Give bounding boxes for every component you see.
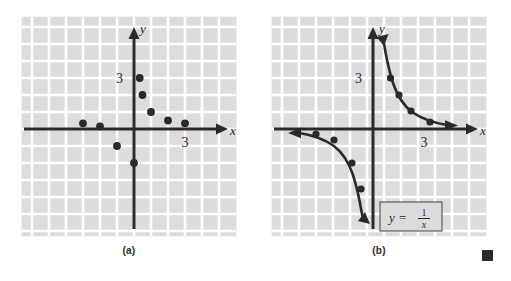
data-point (387, 74, 394, 81)
data-point (395, 91, 402, 98)
data-point (130, 159, 138, 167)
data-point (181, 119, 189, 127)
data-point (136, 74, 144, 82)
equation-numerator: 1 (422, 207, 427, 218)
data-point (139, 91, 147, 99)
data-point (330, 136, 337, 143)
x-axis-arrowhead-a (216, 124, 228, 135)
y-axis-tick-label-a: 3 (116, 71, 123, 86)
panel-b-curve-plot: 3 3 x y y = 1 x (272, 17, 486, 236)
data-point (96, 123, 104, 131)
data-point (348, 159, 355, 166)
x-axis-label-a: x (229, 123, 236, 138)
data-point (426, 118, 433, 125)
panel-a-scatter-plot: 3 3 x y (22, 17, 236, 236)
data-point (113, 142, 121, 150)
y-axis-label-b: y (377, 21, 385, 36)
figure-two-panel-reciprocal-graph: 3 3 x y (0, 0, 511, 281)
grid-lines-a (22, 17, 236, 236)
x-axis-label-b: x (479, 123, 486, 138)
x-axis-tick-label-b: 3 (421, 135, 428, 150)
panel-b-caption: (b) (250, 245, 508, 256)
x-axis-arrowhead-b (466, 124, 478, 135)
data-point (312, 130, 319, 137)
data-point (79, 119, 87, 127)
equation-lhs: y = (387, 210, 407, 225)
y-axis-tick-label-b: 3 (355, 71, 362, 86)
axes-a (24, 37, 218, 229)
panel-a-svg: 3 3 x y (22, 17, 236, 236)
end-of-example-square-icon (482, 250, 493, 261)
data-point (164, 117, 172, 125)
data-point (357, 185, 364, 192)
y-axis-arrowhead-a (129, 27, 140, 39)
panel-b-svg: 3 3 x y y = 1 x (272, 17, 486, 236)
y-axis-label-a: y (138, 21, 146, 36)
equation-denominator: x (421, 219, 427, 230)
x-axis-tick-label-a: 3 (182, 135, 189, 150)
panel-a-caption: (a) (0, 245, 258, 256)
data-point (147, 108, 155, 116)
data-point (407, 107, 414, 114)
equation-box: y = 1 x (380, 202, 442, 231)
